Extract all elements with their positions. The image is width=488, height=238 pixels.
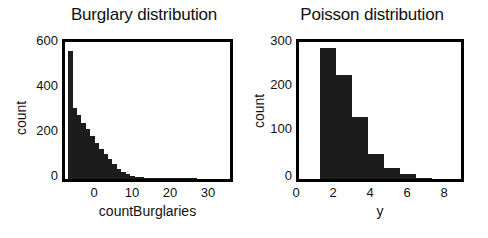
- histogram-bar: [192, 178, 196, 179]
- burglary-ytick-label: 0: [18, 169, 58, 182]
- figure-canvas: Burglary distribution 600 400 200 0 coun…: [0, 0, 488, 238]
- burglary-panel: Burglary distribution 600 400 200 0 coun…: [0, 0, 244, 238]
- burglary-xtick-label: 30: [197, 186, 219, 199]
- poisson-y-axis-label: count: [252, 94, 266, 128]
- poisson-x-axis-label: y: [296, 203, 464, 219]
- histogram-bar: [320, 48, 336, 179]
- burglary-ytick-label: 600: [18, 34, 58, 47]
- poisson-xtick-label: 2: [322, 186, 344, 199]
- poisson-xtick-label: 6: [396, 186, 418, 199]
- burglary-plot-area: [62, 39, 233, 182]
- histogram-bar: [400, 174, 416, 179]
- histogram-bar: [336, 75, 352, 179]
- histogram-bar: [416, 178, 432, 179]
- burglary-xtick-label: 10: [121, 186, 143, 199]
- poisson-ytick-label: 200: [252, 78, 292, 91]
- poisson-plot-area: [296, 39, 464, 182]
- poisson-ytick-label: 300: [252, 34, 292, 47]
- histogram-bar: [352, 117, 368, 179]
- poisson-bar-series: [299, 42, 461, 179]
- burglary-x-axis-label: countBurglaries: [62, 203, 233, 219]
- poisson-panel: Poisson distribution 300 200 100 0 count…: [244, 0, 488, 238]
- poisson-chart-title: Poisson distribution: [244, 4, 488, 26]
- poisson-xtick-label: 8: [433, 186, 455, 199]
- burglary-xtick-label: 0: [83, 186, 105, 199]
- poisson-xtick-label: 4: [359, 186, 381, 199]
- burglary-ytick-label: 400: [18, 79, 58, 92]
- burglary-xtick-label: 20: [159, 186, 181, 199]
- poisson-xtick-label: 0: [285, 186, 307, 199]
- gridline-v: [65, 181, 66, 182]
- histogram-bar: [384, 168, 400, 179]
- gridline-v: [299, 181, 300, 182]
- burglary-chart-title: Burglary distribution: [0, 4, 266, 26]
- burglary-y-axis-label: count: [14, 101, 28, 135]
- burglary-bar-series: [65, 42, 230, 179]
- poisson-ytick-label: 0: [252, 169, 292, 182]
- histogram-bar: [368, 154, 384, 179]
